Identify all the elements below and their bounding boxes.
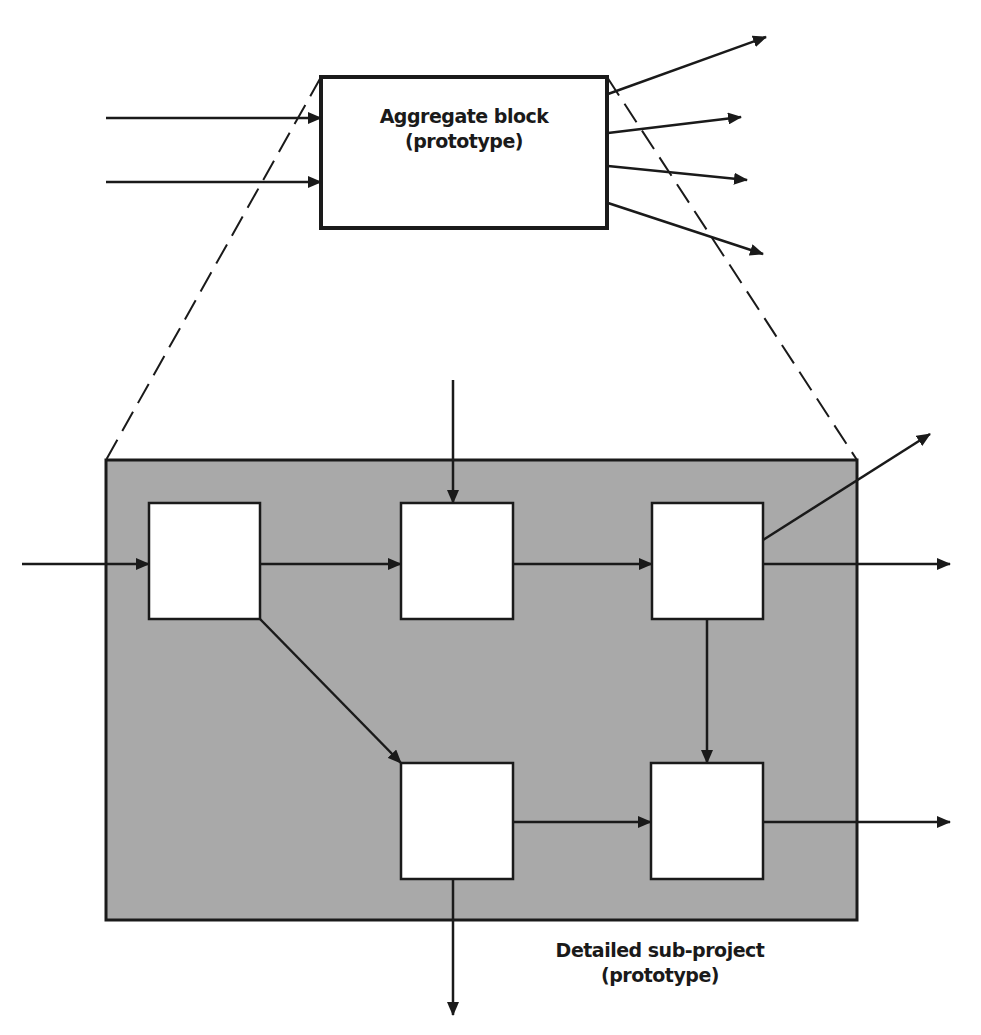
- aggregate-title: Aggregate block: [321, 104, 607, 129]
- subproject-subtitle: (prototype): [540, 963, 780, 988]
- zoom-diagram: [0, 0, 981, 1035]
- sub-block-4: [401, 763, 513, 879]
- sub-block-2: [401, 503, 513, 619]
- aggregate-output-arrow-1: [608, 37, 766, 94]
- subproject-label: Detailed sub-project (prototype): [540, 938, 780, 987]
- sub-block-1: [149, 503, 260, 619]
- projection-line-right: [607, 77, 857, 460]
- aggregate-output-arrow-3: [608, 166, 747, 180]
- aggregate-inputs: [106, 118, 321, 182]
- aggregate-subtitle: (prototype): [321, 129, 607, 154]
- aggregate-block-label: Aggregate block (prototype): [321, 104, 607, 153]
- sub-block-5: [651, 763, 763, 879]
- aggregate-output-arrow-4: [608, 203, 763, 254]
- aggregate-outputs: [608, 37, 766, 254]
- aggregate-output-arrow-2: [608, 117, 741, 133]
- sub-block-3: [652, 503, 763, 619]
- projection-line-left: [106, 77, 321, 460]
- subproject-title: Detailed sub-project: [540, 938, 780, 963]
